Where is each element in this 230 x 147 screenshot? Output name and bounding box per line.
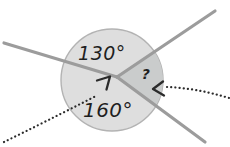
angle-diagram: 130° 160° ?	[0, 0, 230, 147]
diagram-canvas: 130° 160° ?	[0, 0, 230, 147]
angle-label-unknown: ?	[142, 66, 151, 82]
angle-label-top: 130°	[78, 42, 126, 64]
sector-pointer-dotted-line	[167, 87, 229, 98]
angle-label-bottom: 160°	[83, 98, 133, 122]
